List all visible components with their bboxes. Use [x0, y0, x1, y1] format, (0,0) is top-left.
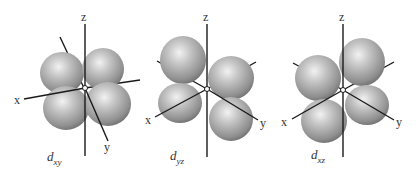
z-axis-label: z — [81, 10, 86, 24]
orbital-dxz: z x y dxz — [281, 10, 402, 165]
orbital-label: dxy — [47, 149, 62, 167]
lobe-top-left — [160, 36, 206, 84]
x-axis-label: x — [281, 115, 287, 129]
z-axis-label: z — [339, 10, 344, 24]
lobe-bottom-left — [301, 99, 347, 143]
orbital-dyz: z x y dyz — [145, 10, 266, 166]
origin — [205, 87, 210, 92]
lobe-top-left — [295, 55, 341, 101]
x-axis-label: x — [14, 93, 20, 107]
orbital-label: dxz — [311, 147, 325, 165]
y-axis-label: y — [104, 140, 110, 154]
x-axis-label: x — [145, 113, 151, 127]
lobe-bottom-right — [345, 85, 389, 125]
lobe-top-right — [339, 38, 385, 86]
origin — [83, 86, 88, 91]
y-axis-label: y — [396, 115, 402, 129]
d-orbitals-diagram: z x y dxy z x y dyz — [0, 0, 416, 173]
origin — [341, 88, 346, 93]
y-axis-label: y — [260, 116, 266, 130]
orbital-dxy: z x y dxy — [14, 10, 140, 167]
z-axis-label: z — [203, 10, 208, 24]
lobe-bottom-left — [43, 86, 89, 130]
orbital-label: dyz — [170, 148, 184, 166]
